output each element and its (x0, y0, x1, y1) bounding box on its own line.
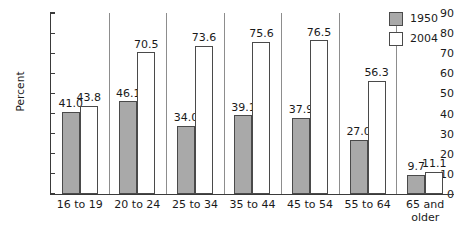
bar-group: 27.056.3 (339, 13, 397, 194)
x-axis-label: 65 and older (396, 199, 454, 224)
bar-value-label: 56.3 (360, 67, 394, 78)
bar-value-label: 73.6 (187, 32, 221, 43)
x-axis-label: 16 to 19 (51, 199, 109, 212)
bar-value-label: 76.5 (302, 27, 336, 38)
bar-value-label: 11.1 (417, 158, 451, 169)
x-axis-label: 55 to 64 (339, 199, 397, 212)
y-axis-title: Percent (15, 52, 26, 132)
bar-1950-65-and-older (407, 175, 425, 195)
x-axis-line (50, 194, 454, 195)
bar-2004-65-and-older (425, 172, 443, 194)
bar-1950-16-to-19 (62, 112, 80, 194)
bar-1950-25-to-34 (177, 126, 195, 194)
bar-group: 41.043.8 (51, 13, 109, 194)
bar-2004-20-to-24 (137, 52, 155, 194)
x-axis-label: 35 to 44 (224, 199, 282, 212)
chart-legend: 19502004 (389, 10, 455, 50)
bar-value-label: 75.6 (244, 28, 278, 39)
x-axis-label: 25 to 34 (166, 199, 224, 212)
bar-group: 34.073.6 (166, 13, 224, 194)
bar-group: 37.976.5 (281, 13, 339, 194)
bar-1950-35-to-44 (234, 115, 252, 194)
bar-chart: Percent 0102030405060708090 41.043.846.1… (0, 0, 459, 239)
bar-2004-25-to-34 (195, 46, 213, 194)
bar-group: 39.175.6 (224, 13, 282, 194)
bar-1950-45-to-54 (292, 118, 310, 194)
x-axis-label: 45 to 54 (281, 199, 339, 212)
bar-2004-35-to-44 (252, 42, 270, 194)
bar-group: 46.170.5 (109, 13, 167, 194)
bar-value-label: 43.8 (72, 92, 106, 103)
gray-filled-swatch (389, 12, 403, 26)
legend-label: 1950 (410, 13, 438, 24)
bar-2004-16-to-19 (80, 106, 98, 194)
x-axis-label: 20 to 24 (109, 199, 167, 212)
bar-1950-55-to-64 (350, 140, 368, 194)
bar-2004-45-to-54 (310, 40, 328, 194)
legend-item-2004: 2004 (389, 30, 455, 47)
bar-value-label: 70.5 (129, 39, 163, 50)
bar-1950-20-to-24 (119, 101, 137, 194)
legend-label: 2004 (410, 33, 438, 44)
white-outlined-swatch (389, 32, 403, 46)
legend-item-1950: 1950 (389, 10, 455, 27)
bar-2004-55-to-64 (368, 81, 386, 194)
